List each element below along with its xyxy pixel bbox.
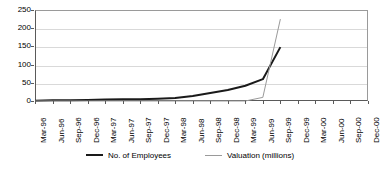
x-axis-tick — [35, 101, 36, 104]
x-axis-tick-label: Jun-99 — [267, 119, 276, 143]
x-axis-tick-label: Sep-97 — [144, 117, 153, 143]
y-axis-tick-label: 0 — [0, 97, 31, 105]
x-axis-tick — [298, 101, 299, 104]
x-axis-tick-label: Dec-96 — [92, 117, 101, 143]
x-axis: Mar-96Jun-96Sep-96Dec-96Mar-97Jun-97Sep-… — [35, 105, 368, 145]
x-axis-tick-label: Jun-97 — [127, 119, 136, 143]
x-axis-tick — [70, 101, 71, 104]
thin-line-swatch — [205, 155, 222, 156]
legend-label: Valuation (millions) — [227, 151, 294, 160]
x-axis-tick — [368, 101, 369, 104]
y-axis-tick-label: 250 — [0, 6, 31, 14]
x-axis-tick-label: Dec-97 — [162, 117, 171, 143]
x-axis-tick — [193, 101, 194, 104]
x-axis-tick — [280, 101, 281, 104]
x-axis-tick — [88, 101, 89, 104]
y-axis-tick-label: 50 — [0, 79, 31, 87]
line-chart: 250200150100500 Mar-96Jun-96Sep-96Dec-96… — [0, 0, 380, 169]
x-axis-tick-label: Mar-97 — [109, 118, 118, 143]
x-axis-tick-label: Dec-99 — [302, 117, 311, 143]
x-axis-tick-label: Jun-96 — [57, 119, 66, 143]
y-axis-tick — [31, 83, 34, 84]
x-axis-tick-label: Mar-00 — [319, 118, 328, 143]
series-line — [35, 19, 280, 101]
x-axis-tick — [333, 101, 334, 104]
x-axis-tick-label: Mar-98 — [179, 118, 188, 143]
y-axis-tick — [31, 65, 34, 66]
y-axis-tick-label: 200 — [0, 24, 31, 32]
y-axis-tick — [31, 10, 34, 11]
x-axis-tick-label: Sep-00 — [354, 117, 363, 143]
chart-legend: No. of Employees Valuation (millions) — [0, 148, 380, 162]
x-axis-tick-label: Sep-99 — [284, 117, 293, 143]
x-axis-tick-label: Dec-98 — [232, 117, 241, 143]
x-axis-tick — [210, 101, 211, 104]
x-axis-tick — [158, 101, 159, 104]
y-axis: 250200150100500 — [0, 0, 31, 111]
x-axis-tick — [228, 101, 229, 104]
y-axis-tick-label: 150 — [0, 42, 31, 50]
y-axis-tick — [31, 46, 34, 47]
x-axis-tick — [175, 101, 176, 104]
y-axis-tick-label: 100 — [0, 61, 31, 69]
x-axis-tick — [263, 101, 264, 104]
series-layer — [35, 10, 368, 101]
x-axis-tick-label: Sep-96 — [74, 117, 83, 143]
legend-label: No. of Employees — [108, 151, 171, 160]
x-axis-tick — [53, 101, 54, 104]
x-axis-tick-label: Mar-96 — [39, 118, 48, 143]
x-axis-tick — [123, 101, 124, 104]
x-axis-tick-label: Jun-98 — [197, 119, 206, 143]
x-axis-tick-label: Jun-00 — [337, 119, 346, 143]
x-axis-tick — [245, 101, 246, 104]
y-axis-tick — [31, 28, 34, 29]
legend-item-employees: No. of Employees — [86, 151, 171, 160]
x-axis-tick — [315, 101, 316, 104]
x-axis-tick-label: Dec-00 — [372, 117, 380, 143]
series-line — [35, 47, 280, 101]
legend-item-valuation: Valuation (millions) — [205, 151, 294, 160]
x-axis-tick-label: Mar-99 — [249, 118, 258, 143]
x-axis-tick-label: Sep-98 — [214, 117, 223, 143]
x-axis-tick — [350, 101, 351, 104]
x-axis-tick — [140, 101, 141, 104]
thick-line-swatch — [86, 154, 103, 156]
x-axis-tick — [105, 101, 106, 104]
y-axis-tick — [31, 101, 34, 102]
